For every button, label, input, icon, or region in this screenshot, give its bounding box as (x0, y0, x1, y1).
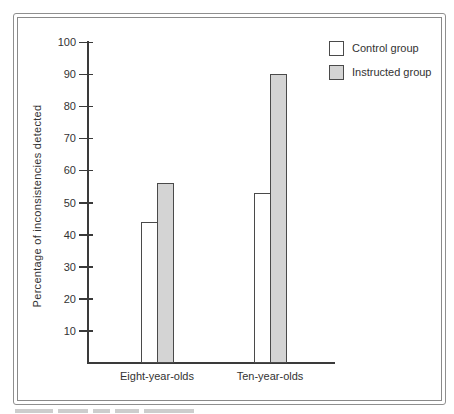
y-tick-10 (79, 330, 93, 332)
y-tick-label-100: 100 (42, 36, 76, 48)
legend-label-instructed: Instructed group (352, 66, 432, 78)
legend-swatch-instructed (329, 65, 344, 80)
bar-control-group-eight-year-olds (141, 222, 158, 363)
y-tick-30 (79, 266, 93, 268)
bar-instructed-group-eight-year-olds (157, 183, 174, 363)
y-tick-20 (79, 298, 93, 300)
y-tick-70 (79, 138, 93, 140)
y-tick-label-60: 60 (42, 164, 76, 176)
y-tick-40 (79, 234, 93, 236)
y-tick-label-90: 90 (42, 68, 76, 80)
figure-canvas: Percentage of inconsistencies detected 1… (0, 0, 454, 414)
legend-label-control: Control group (352, 42, 419, 54)
legend-swatch-control (329, 41, 344, 56)
y-tick-label-50: 50 (42, 197, 76, 209)
y-tick-90 (79, 74, 93, 76)
y-tick-label-20: 20 (42, 293, 76, 305)
y-tick-label-10: 10 (42, 325, 76, 337)
y-tick-80 (79, 106, 93, 108)
bar-control-group-ten-year-olds (254, 193, 271, 363)
y-tick-50 (79, 202, 93, 204)
bar-instructed-group-ten-year-olds (270, 74, 287, 363)
legend-item-control: Control group (329, 40, 432, 56)
y-tick-60 (79, 170, 93, 172)
category-label-ten-year-olds: Ten-year-olds (205, 370, 335, 382)
category-label-eight-year-olds: Eight-year-olds (92, 370, 222, 382)
y-tick-label-40: 40 (42, 229, 76, 241)
y-tick-label-70: 70 (42, 132, 76, 144)
x-axis-line (87, 362, 335, 364)
y-tick-100 (79, 42, 93, 44)
y-tick-label-80: 80 (42, 100, 76, 112)
legend: Control group Instructed group (329, 40, 432, 88)
legend-item-instructed: Instructed group (329, 64, 432, 80)
y-tick-label-30: 30 (42, 261, 76, 273)
cropped-caption-fragment (15, 409, 194, 413)
